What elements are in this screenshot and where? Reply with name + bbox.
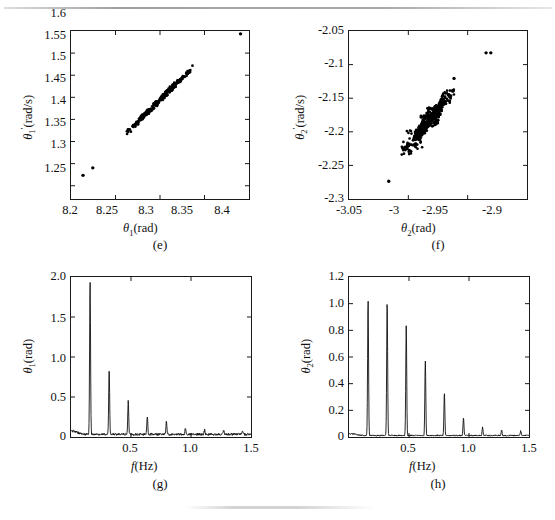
panel-h-ytick-0: 0: [308, 430, 344, 443]
panel-g-xaxis-label: f(Hz): [131, 459, 157, 474]
panel-h-xaxis-label: f(Hz): [409, 459, 435, 474]
panel-f-xaxis-unit: (rad): [411, 221, 435, 235]
panel-h-xtick-2: 1.5: [511, 442, 547, 455]
panel-f-ytick-5: -2.05: [298, 24, 344, 37]
panel-h-yaxis-sub: 2: [305, 363, 315, 367]
panel-g-ytick-0: 0: [30, 430, 66, 443]
panel-g-yaxis-unit: (rad): [21, 339, 35, 363]
panel-h-ytick-5: 1.0: [308, 297, 344, 310]
panel-f-xtick-0: -3.05: [328, 204, 370, 217]
panel-f-ytick-4: -2.1: [298, 57, 344, 70]
panel-g-yaxis-sub: 1: [27, 363, 37, 367]
panel-e-caption: (e): [130, 237, 190, 253]
panel-e-yaxis-label: θ1′(rad/s): [19, 78, 38, 156]
panel-f-ytick-1: -2.25: [298, 159, 344, 172]
panel-f-caption: (f): [408, 237, 468, 253]
panel-h-yaxis-unit: (rad): [299, 339, 313, 363]
panel-e-xtick-3: 8.35: [162, 204, 202, 217]
panel-h-xtick-0: 0.5: [390, 442, 426, 455]
panel-f-xaxis-label: θ2(rad): [401, 221, 436, 238]
panel-f-data-layer: [349, 31, 527, 199]
panel-h-data-layer: [349, 277, 529, 437]
panel-e-yaxis-theta: θ: [21, 134, 35, 140]
panel-f: -2.3 -2.25 -2.2 -2.15 -2.1 -2.05 -3.05 -…: [278, 0, 555, 258]
panel-g-xtick-1: 1.0: [172, 442, 208, 455]
panel-e-plot-frame: [70, 30, 250, 200]
panel-h-yaxis-theta: θ: [299, 367, 313, 373]
panel-e-ytick-6: 1.55: [28, 29, 66, 42]
panel-e-ytick-7: 1.6: [28, 7, 66, 20]
panel-e-xtick-4: 8.4: [204, 204, 240, 217]
panel-e-yaxis-unit: (rad/s): [21, 95, 35, 128]
panel-f-plot-frame: [348, 30, 528, 200]
panel-h-plot-frame: [348, 276, 530, 438]
panel-e-xaxis-label: θ1(rad): [123, 221, 158, 238]
panel-f-yaxis-label: θ2′(rad/s): [291, 78, 310, 156]
panel-e-data-layer: [71, 31, 249, 199]
panel-e-xtick-2: 8.3: [128, 204, 164, 217]
panel-h-ytick-6: 1.2: [308, 270, 344, 283]
panel-g-yaxis-label: θ1(rad): [21, 321, 38, 391]
panel-g-yaxis-theta: θ: [21, 367, 35, 373]
panel-f-yaxis-sub: 2: [299, 129, 309, 133]
panel-e-yaxis-sub: 1: [27, 129, 37, 133]
panel-g-plot-frame: [70, 276, 252, 438]
panel-f-xtick-1: -3: [378, 204, 410, 217]
panel-g-xaxis-unit: (Hz): [134, 459, 157, 473]
panel-e-xaxis-unit: (rad): [133, 221, 157, 235]
panel-g-ytick-1: 0.5: [30, 391, 66, 404]
panel-g-caption: (g): [130, 476, 190, 492]
panel-h-caption: (h): [408, 476, 468, 492]
panel-e-ytick-0: 1.25: [28, 162, 66, 175]
panel-g: 0 0.5 1.0 1.5 2.0 0.5 1.0 1.5 f(Hz) θ1(r…: [0, 258, 278, 520]
panel-e-xtick-1: 8.25: [87, 204, 127, 217]
panel-f-yaxis-theta: θ: [293, 134, 307, 140]
panel-h-ytick-1: 0.2: [308, 404, 344, 417]
panel-h: 0 0.2 0.4 0.6 0.8 1.0 1.2 0.5 1.0 1.5 f(…: [278, 258, 555, 520]
panel-f-yaxis-unit: (rad/s): [293, 95, 307, 128]
panel-g-xtick-0: 0.5: [112, 442, 148, 455]
panel-e: 1.25 1.3 1.35 1.4 1.45 1.5 1.55 1.6 8.2 …: [0, 0, 278, 258]
figure-root: 1.25 1.3 1.35 1.4 1.45 1.5 1.55 1.6 8.2 …: [0, 0, 555, 520]
panel-e-ytick-5: 1.5: [28, 50, 66, 63]
panel-f-yaxis-prime: ′: [291, 128, 301, 130]
panel-g-data-layer: [71, 277, 251, 437]
panel-h-xaxis-unit: (Hz): [412, 459, 435, 473]
panel-f-xtick-3: -2.9: [473, 204, 511, 217]
panel-f-xtick-2: -2.95: [414, 204, 456, 217]
panel-h-yaxis-label: θ2(rad): [299, 321, 316, 391]
panel-e-xtick-0: 8.2: [52, 204, 88, 217]
panel-e-yaxis-prime: ′: [19, 128, 29, 130]
panel-g-xtick-2: 1.5: [233, 442, 269, 455]
panel-g-ytick-4: 2.0: [30, 270, 66, 283]
panel-h-xtick-1: 1.0: [450, 442, 486, 455]
